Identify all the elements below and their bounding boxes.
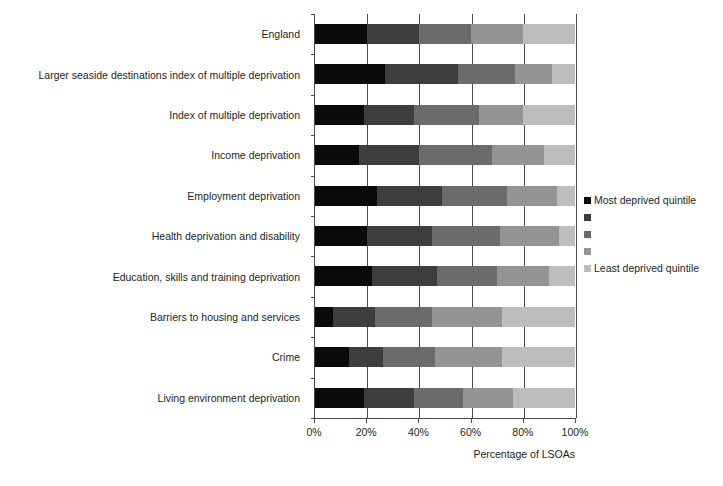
bar-segment (359, 145, 419, 165)
y-axis-tick (311, 378, 315, 379)
legend-label: Most deprived quintile (594, 195, 696, 206)
bar-segment (419, 24, 471, 44)
bar-segment (432, 226, 500, 246)
bar-row (315, 135, 575, 175)
bar-row (315, 54, 575, 94)
x-axis-tick (366, 418, 367, 423)
x-axis-tick-label: 60% (460, 426, 481, 438)
legend-swatch (584, 214, 591, 221)
x-axis-line (314, 418, 575, 419)
bar-segment (315, 24, 367, 44)
legend-item[interactable] (584, 209, 723, 226)
x-axis-tick (418, 418, 419, 423)
bar-segment (479, 105, 523, 125)
legend-swatch (584, 265, 591, 272)
bar-segment (315, 226, 367, 246)
bar-segment (442, 186, 507, 206)
legend-item[interactable]: Most deprived quintile (584, 192, 723, 209)
bar-segment (367, 24, 419, 44)
x-axis-tick (523, 418, 524, 423)
bar-segment (507, 186, 556, 206)
bar-segment (492, 145, 544, 165)
bar-row (315, 14, 575, 54)
category-label: Education, skills and training deprivati… (0, 271, 308, 283)
x-axis-tick (575, 418, 576, 423)
bar-segment (523, 24, 575, 44)
y-axis-tick (311, 337, 315, 338)
bar-segment (315, 307, 333, 327)
legend: Most deprived quintileLeast deprived qui… (584, 192, 723, 277)
y-axis-tick (311, 54, 315, 55)
stacked-bar (315, 145, 575, 165)
gridline-100% (576, 14, 577, 418)
stacked-bar (315, 24, 575, 44)
stacked-bar (315, 347, 575, 367)
bar-segment (315, 388, 364, 408)
x-axis-tick-label: 40% (408, 426, 429, 438)
bar-segment (435, 347, 503, 367)
bar-row (315, 216, 575, 256)
category-axis-labels: EnglandLarger seaside destinations index… (0, 14, 308, 418)
bar-row (315, 297, 575, 337)
bar-segment (500, 226, 560, 246)
x-axis-tick (471, 418, 472, 423)
legend-item[interactable]: Least deprived quintile (584, 260, 723, 277)
bar-segment (364, 388, 413, 408)
x-axis-tick-label: 0% (306, 426, 321, 438)
legend-swatch (584, 197, 591, 204)
bar-segment (315, 105, 364, 125)
category-label: Barriers to housing and services (0, 311, 308, 323)
bar-segment (544, 145, 575, 165)
y-axis-tick (311, 256, 315, 257)
bar-segment (523, 105, 575, 125)
bar-segment (557, 186, 575, 206)
bar-segment (463, 388, 512, 408)
bar-segment (471, 24, 523, 44)
legend-label: Least deprived quintile (594, 263, 699, 274)
legend-item[interactable] (584, 226, 723, 243)
legend-swatch (584, 248, 591, 255)
bar-segment (364, 105, 413, 125)
bar-segment (383, 347, 435, 367)
y-axis-tick (311, 176, 315, 177)
bar-segment (333, 307, 375, 327)
stacked-bar (315, 105, 575, 125)
bar-segment (502, 307, 575, 327)
bar-segment (497, 266, 549, 286)
bar-row (315, 337, 575, 377)
bar-segment (315, 64, 385, 84)
bar-segment (502, 347, 575, 367)
category-label: England (0, 28, 308, 40)
bar-segment (432, 307, 502, 327)
bar-segment (315, 266, 372, 286)
bar-segment (375, 307, 432, 327)
category-label: Employment deprivation (0, 190, 308, 202)
bar-segment (385, 64, 458, 84)
stacked-bar (315, 266, 575, 286)
category-label: Crime (0, 351, 308, 363)
bar-segment (414, 388, 463, 408)
bar-row (315, 176, 575, 216)
y-axis-tick (311, 297, 315, 298)
stacked-bar (315, 186, 575, 206)
stacked-bar (315, 226, 575, 246)
bar-segment (377, 186, 442, 206)
x-axis-title: Percentage of LSOAs (314, 448, 575, 460)
bar-row (315, 378, 575, 418)
stacked-bar-chart: EnglandLarger seaside destinations index… (0, 0, 723, 486)
bar-segment (315, 145, 359, 165)
x-axis-tick (314, 418, 315, 423)
bar-row (315, 256, 575, 296)
category-label: Living environment deprivation (0, 392, 308, 404)
bar-row (315, 95, 575, 135)
bar-segment (437, 266, 497, 286)
bar-segment (549, 266, 575, 286)
stacked-bar (315, 307, 575, 327)
bar-segment (315, 347, 349, 367)
category-label: Health deprivation and disability (0, 230, 308, 242)
y-axis-tick (311, 216, 315, 217)
category-label: Larger seaside destinations index of mul… (0, 69, 308, 81)
bar-segment (458, 64, 515, 84)
legend-item[interactable] (584, 243, 723, 260)
stacked-bar (315, 64, 575, 84)
